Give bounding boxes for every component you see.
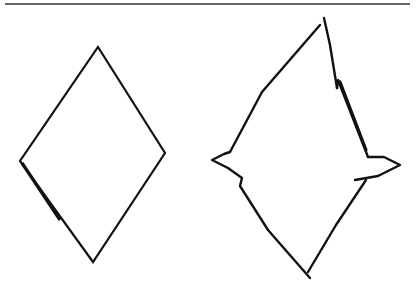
plain-diamond: [20, 47, 165, 262]
diagram-canvas: [0, 0, 416, 301]
spiked-diamond: [212, 18, 400, 278]
